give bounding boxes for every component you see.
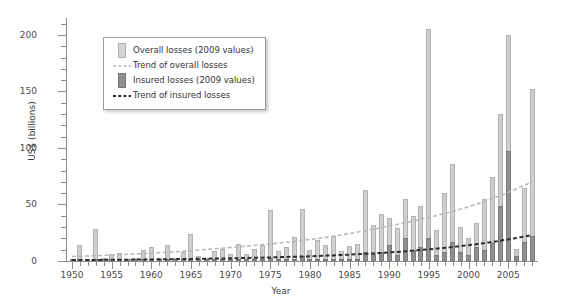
legend-label: Trend of insured losses bbox=[133, 91, 230, 100]
x-axis-tick-minor bbox=[453, 262, 454, 266]
x-axis-tick-minor bbox=[96, 262, 97, 266]
x-axis-tick-minor bbox=[262, 262, 263, 266]
x-axis-tick-minor bbox=[476, 262, 477, 266]
x-axis-tick-minor bbox=[246, 262, 247, 266]
y-axis-tick-label: 0 bbox=[31, 256, 37, 266]
x-axis-tick-major bbox=[72, 262, 73, 269]
legend-label: Trend of overall losses bbox=[133, 61, 228, 70]
x-axis-tick-minor bbox=[302, 262, 303, 266]
x-axis-tick-minor bbox=[358, 262, 359, 266]
x-axis-tick-minor bbox=[215, 262, 216, 266]
x-axis-tick-label: 1985 bbox=[338, 270, 361, 280]
x-axis-tick-minor bbox=[167, 262, 168, 266]
x-axis-tick-label: 1990 bbox=[378, 270, 401, 280]
x-axis-tick-minor bbox=[405, 262, 406, 266]
legend-item-trend-insured: Trend of insured losses bbox=[111, 88, 258, 103]
x-axis-tick-major bbox=[469, 262, 470, 269]
x-axis-tick-major bbox=[191, 262, 192, 269]
y-axis-tick-label: 50 bbox=[26, 199, 37, 209]
x-axis-tick-minor bbox=[381, 262, 382, 266]
x-axis-tick-minor bbox=[183, 262, 184, 266]
y-axis-ticks: 050100150200 bbox=[0, 0, 66, 279]
y-axis-tick-label: 200 bbox=[20, 30, 37, 40]
x-axis-tick-minor bbox=[484, 262, 485, 266]
x-axis-tick-label: 2000 bbox=[457, 270, 480, 280]
x-axis-tick-minor bbox=[516, 262, 517, 266]
x-axis-tick-label: 1980 bbox=[298, 270, 321, 280]
x-axis-tick-minor bbox=[120, 262, 121, 266]
insured-losses-swatch-icon bbox=[111, 73, 133, 88]
legend-item-insured-losses: Insured losses (2009 values) bbox=[111, 73, 258, 88]
trend-line bbox=[72, 235, 532, 260]
x-axis-tick-minor bbox=[239, 262, 240, 266]
chart-figure: US$ (billions) Year 050100150200 1950195… bbox=[0, 0, 562, 305]
x-axis-tick-minor bbox=[461, 262, 462, 266]
legend-item-overall-losses: Overall losses (2009 values) bbox=[111, 43, 258, 58]
y-axis-tick-label: 150 bbox=[20, 86, 37, 96]
x-axis-tick-label: 1950 bbox=[61, 270, 84, 280]
legend-label: Insured losses (2009 values) bbox=[133, 76, 255, 85]
y-axis-tick-major bbox=[58, 261, 66, 262]
x-axis-tick-minor bbox=[135, 262, 136, 266]
x-axis-tick-minor bbox=[254, 262, 255, 266]
x-axis-tick-minor bbox=[175, 262, 176, 266]
x-axis-tick-minor bbox=[223, 262, 224, 266]
x-axis-tick-label: 1995 bbox=[417, 270, 440, 280]
x-axis-tick-minor bbox=[104, 262, 105, 266]
x-axis-tick-minor bbox=[365, 262, 366, 266]
x-axis-tick-minor bbox=[199, 262, 200, 266]
x-axis-tick-minor bbox=[318, 262, 319, 266]
x-axis-tick-label: 1965 bbox=[180, 270, 203, 280]
x-axis-tick-major bbox=[350, 262, 351, 269]
x-axis-tick-minor bbox=[88, 262, 89, 266]
x-axis-tick-minor bbox=[500, 262, 501, 266]
x-axis-tick-minor bbox=[80, 262, 81, 266]
x-axis-tick-minor bbox=[524, 262, 525, 266]
x-axis-tick-minor bbox=[128, 262, 129, 266]
x-axis-tick-major bbox=[310, 262, 311, 269]
x-axis-tick-minor bbox=[397, 262, 398, 266]
y-axis-tick-major bbox=[58, 91, 66, 92]
x-axis-tick-minor bbox=[143, 262, 144, 266]
x-axis-tick-major bbox=[389, 262, 390, 269]
x-axis-tick-minor bbox=[421, 262, 422, 266]
x-axis-tick-label: 1955 bbox=[100, 270, 123, 280]
x-axis-tick-major bbox=[429, 262, 430, 269]
x-axis-tick-minor bbox=[373, 262, 374, 266]
x-axis-tick-label: 1970 bbox=[219, 270, 242, 280]
x-axis-tick-minor bbox=[326, 262, 327, 266]
y-axis-tick-major bbox=[58, 35, 66, 36]
x-axis-tick-minor bbox=[445, 262, 446, 266]
legend-label: Overall losses (2009 values) bbox=[133, 46, 253, 55]
y-axis-tick-major bbox=[58, 204, 66, 205]
y-axis-tick-label: 100 bbox=[20, 143, 37, 153]
x-axis-tick-label: 2005 bbox=[497, 270, 520, 280]
x-axis-tick-minor bbox=[286, 262, 287, 266]
x-axis-tick-minor bbox=[207, 262, 208, 266]
x-axis-tick-major bbox=[112, 262, 113, 269]
overall-losses-swatch-icon bbox=[111, 43, 133, 58]
x-axis-tick-minor bbox=[492, 262, 493, 266]
x-axis-tick-major bbox=[508, 262, 509, 269]
x-axis-tick-minor bbox=[159, 262, 160, 266]
x-axis-tick-minor bbox=[413, 262, 414, 266]
legend-item-trend-overall: Trend of overall losses bbox=[111, 58, 258, 73]
x-axis-tick-minor bbox=[334, 262, 335, 266]
x-axis-tick-minor bbox=[342, 262, 343, 266]
insured-trend-dash-icon bbox=[111, 94, 133, 98]
x-axis-ticks: 1950195519601965197019751980198519901995… bbox=[66, 262, 538, 292]
overall-trend-dash-icon bbox=[111, 64, 133, 68]
x-axis-tick-minor bbox=[278, 262, 279, 266]
x-axis-tick-minor bbox=[294, 262, 295, 266]
x-axis-tick-major bbox=[151, 262, 152, 269]
x-axis-tick-minor bbox=[437, 262, 438, 266]
x-axis-tick-major bbox=[270, 262, 271, 269]
x-axis-tick-label: 1975 bbox=[259, 270, 282, 280]
chart-legend: Overall losses (2009 values) Trend of ov… bbox=[103, 37, 266, 110]
x-axis-tick-label: 1960 bbox=[140, 270, 163, 280]
x-axis-tick-minor bbox=[532, 262, 533, 266]
x-axis-tick-major bbox=[231, 262, 232, 269]
y-axis-tick-major bbox=[58, 148, 66, 149]
